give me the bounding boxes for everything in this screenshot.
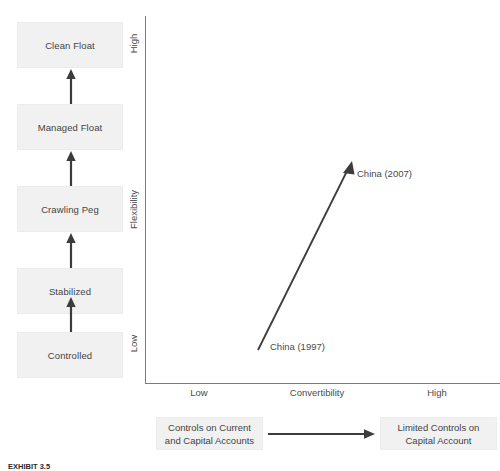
ladder-box-clean-float: Clean Float	[17, 22, 123, 68]
annotation-china-1997: China (1997)	[270, 341, 325, 352]
ladder-arrow-up-4	[62, 296, 80, 332]
y-axis-title: Flexibility	[128, 180, 139, 240]
y-axis-line	[145, 16, 146, 384]
ladder-box-crawling-peg: Crawling Peg	[17, 186, 123, 232]
band-box-line2: Capital Account	[405, 434, 471, 447]
ladder-box-label: Controlled	[48, 350, 92, 361]
ladder-arrow-up-1	[62, 68, 80, 104]
band-box-line1: Controls on Current	[168, 421, 251, 434]
x-axis-high-label: High	[410, 387, 464, 398]
figure-container: Clean Float Managed Float Crawling Peg S…	[0, 0, 500, 471]
figure-caption-number: EXHIBIT 3.5	[8, 462, 50, 471]
ladder-arrow-up-2	[62, 150, 80, 186]
x-axis-line	[145, 383, 500, 384]
band-box-line2: and Capital Accounts	[165, 434, 254, 447]
ladder-box-controlled: Controlled	[17, 332, 123, 378]
band-arrow-right	[268, 425, 376, 443]
x-axis-title: Convertibility	[280, 387, 354, 398]
ladder-box-managed-float: Managed Float	[17, 104, 123, 150]
band-box-line1: Limited Controls on	[398, 421, 480, 434]
ladder-box-label: Crawling Peg	[41, 204, 99, 215]
y-axis-high-label: High	[128, 14, 139, 74]
ladder-arrow-up-3	[62, 232, 80, 268]
band-box-limited-controls-capital: Limited Controls on Capital Account	[380, 417, 497, 450]
y-axis-low-label: Low	[128, 314, 139, 374]
ladder-box-label: Managed Float	[38, 122, 103, 133]
band-box-controls-current-capital: Controls on Current and Capital Accounts	[156, 417, 263, 450]
ladder-box-label: Clean Float	[45, 40, 95, 51]
ladder-box-label: Stabilized	[49, 286, 91, 297]
china-trajectory-arrow	[145, 16, 500, 384]
x-axis-low-label: Low	[172, 387, 226, 398]
annotation-china-2007: China (2007)	[357, 168, 412, 179]
figure-caption: EXHIBIT 3.5	[8, 462, 50, 471]
